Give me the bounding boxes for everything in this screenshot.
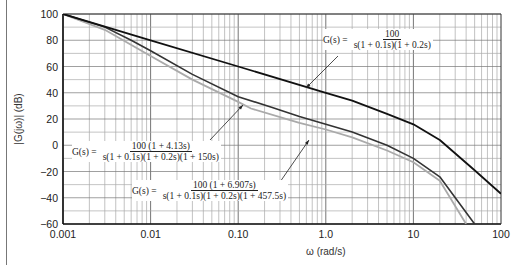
eq-lhs: G(s) =	[323, 35, 348, 45]
eq-denominator: s(1 + 0.1s)(1 + 0.2s)(1 + 457.5s)	[161, 191, 288, 201]
annotation-arrow	[280, 140, 309, 182]
arrow-head-icon	[305, 140, 309, 145]
y-tick-label: −40	[40, 192, 58, 204]
eq-lhs: G(s) =	[72, 147, 97, 157]
x-tick-label: 0.01	[140, 228, 161, 240]
eq-numerator: 100 (1 + 6.907s)	[191, 180, 258, 191]
y-tick-label: 0	[52, 139, 58, 151]
annotation-g1: G(s) = 100s(1 + 0.1s)(1 + 0.2s)	[323, 29, 433, 50]
y-axis-label: |G(jω)| (dB)	[13, 93, 24, 144]
annotation-g3: G(s) = 100 (1 + 6.907s)s(1 + 0.1s)(1 + 0…	[132, 180, 288, 201]
eq-lhs: G(s) =	[132, 186, 157, 196]
y-tick-label: −20	[40, 166, 58, 178]
eq-numerator: 100	[383, 29, 401, 40]
x-tick-label: 0.001	[50, 228, 76, 240]
x-tick-label: 100	[492, 228, 510, 240]
x-tick-label: 1.0	[318, 228, 333, 240]
y-tick-label: 100	[40, 8, 58, 20]
x-tick-label: 0.10	[228, 228, 249, 240]
x-axis-label: ω (rad/s)	[306, 246, 345, 257]
eq-denominator: s(1 + 0.1s)(1 + 0.2s)	[352, 40, 433, 50]
annotation-g2: G(s) = 100 (1 + 4.13s)s(1 + 0.1s)(1 + 0.…	[72, 141, 221, 162]
x-tick-label: 10	[408, 228, 420, 240]
eq-numerator: 100 (1 + 4.13s)	[130, 141, 192, 152]
y-tick-label: 80	[46, 34, 58, 46]
series-line-1	[63, 14, 501, 194]
bode-magnitude-plot: 100806040200−20−40−600.0010.010.101.0101…	[0, 0, 521, 265]
eq-denominator: s(1 + 0.1s)(1 + 0.2s)(1 + 150s)	[101, 152, 221, 162]
y-tick-label: 60	[46, 61, 58, 73]
y-tick-label: 20	[46, 113, 58, 125]
y-tick-label: 40	[46, 87, 58, 99]
